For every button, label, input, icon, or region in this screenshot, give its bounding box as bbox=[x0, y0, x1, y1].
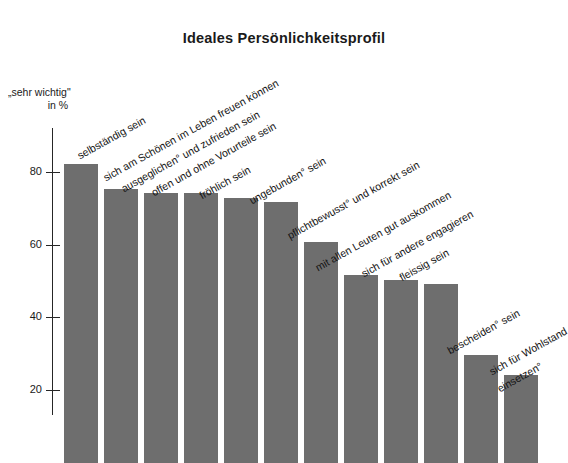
bar-fleissig-sein bbox=[424, 284, 458, 463]
y-tick-mark-60 bbox=[46, 245, 60, 246]
bar-selbstaendig-sein bbox=[64, 164, 98, 463]
bar-mit-allen-leuten-auskommen bbox=[344, 275, 378, 463]
y-tick-mark-80 bbox=[46, 172, 60, 173]
y-tick-label-20: 20 bbox=[8, 384, 42, 395]
y-tick-label-80: 80 bbox=[8, 166, 42, 177]
y-tick-mark-40 bbox=[46, 317, 60, 318]
bar-sich-am-schoenen-freuen bbox=[104, 189, 138, 463]
y-tick-mark-20 bbox=[46, 390, 60, 391]
bar-fuer-andere-engagieren bbox=[384, 280, 418, 463]
bar-ungebunden-sein bbox=[264, 202, 298, 463]
y-tick-label-40: 40 bbox=[8, 311, 42, 322]
bar-offen-ohne-vorurteile bbox=[184, 193, 218, 463]
y-tick-label-60: 60 bbox=[8, 239, 42, 250]
category-label-ungebunden-sein: ungebunden° sein bbox=[247, 154, 328, 206]
bar-pflichtbewusst-korrekt bbox=[304, 242, 338, 463]
bar-froehlich-sein bbox=[224, 198, 258, 463]
bar-ausgeglichen-zufrieden bbox=[144, 193, 178, 463]
